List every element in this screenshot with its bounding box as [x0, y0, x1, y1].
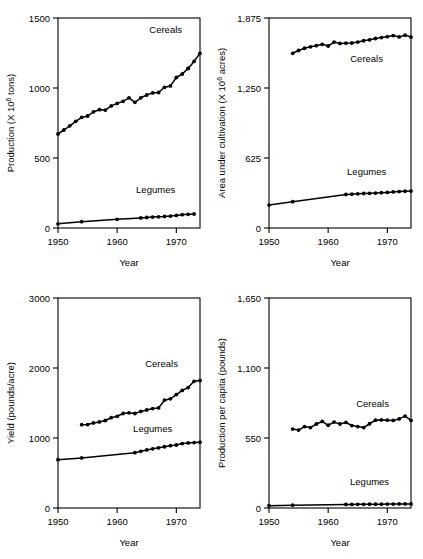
- data-point: [198, 51, 202, 55]
- data-point: [314, 422, 318, 426]
- data-point: [92, 110, 96, 114]
- data-point: [103, 108, 107, 112]
- chart-panel-area: 06251,2501,875195019601970YearArea under…: [211, 0, 422, 279]
- data-point: [391, 190, 395, 194]
- data-point: [169, 84, 173, 88]
- data-point: [385, 502, 389, 506]
- data-point: [380, 502, 384, 506]
- plot-frame: [58, 298, 200, 508]
- data-point: [267, 504, 271, 508]
- data-point: [332, 420, 336, 424]
- chart-svg-yield: 0100020003000195019601970YearYield (poun…: [0, 280, 211, 559]
- data-point: [180, 213, 184, 217]
- series-label-cereals: Cereals: [356, 398, 389, 409]
- series-label-legumes: Legumes: [136, 184, 175, 195]
- y-axis-title: Area under cultivation (X 106 acres): [216, 48, 227, 198]
- x-tick-label: 1960: [318, 516, 339, 527]
- chart-svg-per-capita: 05501,1001,650195019601970YearProduction…: [211, 280, 422, 559]
- data-point: [198, 440, 202, 444]
- data-point: [56, 458, 60, 462]
- data-point: [151, 215, 155, 219]
- x-tick-label: 1950: [258, 516, 279, 527]
- series-label-cereals: Cereals: [350, 53, 383, 64]
- series-label-legumes: Legumes: [133, 423, 172, 434]
- data-point: [391, 34, 395, 38]
- data-line-legumes: [58, 214, 194, 224]
- data-point: [133, 100, 137, 104]
- agriculture-figure: 050010001500195019601970YearProduction (…: [0, 0, 423, 559]
- x-tick-label: 1950: [47, 236, 68, 247]
- data-point: [115, 102, 119, 106]
- series-label-legumes: Legumes: [347, 166, 386, 177]
- data-point: [350, 503, 354, 507]
- data-point: [145, 448, 149, 452]
- data-point: [109, 416, 113, 420]
- data-point: [163, 215, 167, 219]
- data-point: [157, 446, 161, 450]
- data-point: [403, 189, 407, 193]
- y-tick-label: 1,100: [237, 363, 261, 374]
- data-point: [133, 412, 137, 416]
- data-point: [374, 502, 378, 506]
- data-point: [92, 421, 96, 425]
- data-line-cereals: [82, 381, 200, 425]
- data-point: [409, 35, 413, 39]
- data-point: [391, 502, 395, 506]
- y-tick-label: 1,650: [237, 293, 261, 304]
- data-point: [163, 85, 167, 89]
- y-tick-label: 1,875: [237, 13, 261, 24]
- data-point: [109, 104, 113, 108]
- series-label-cereals: Cereals: [145, 358, 178, 369]
- data-point: [174, 214, 178, 218]
- y-tick-label: 3000: [29, 293, 50, 304]
- data-point: [380, 418, 384, 422]
- data-point: [403, 33, 407, 37]
- y-tick-label: 1,250: [237, 83, 261, 94]
- data-point: [344, 421, 348, 425]
- data-point: [314, 44, 318, 48]
- data-point: [374, 37, 378, 41]
- data-point: [362, 426, 366, 430]
- data-point: [192, 441, 196, 445]
- data-point: [139, 449, 143, 453]
- data-point: [356, 40, 360, 44]
- data-point: [186, 386, 190, 390]
- data-point: [127, 411, 131, 415]
- data-point: [344, 503, 348, 507]
- data-point: [163, 398, 167, 402]
- data-point: [145, 408, 149, 412]
- y-tick-label: 550: [245, 433, 261, 444]
- series-label-legumes: Legumes: [350, 476, 389, 487]
- y-tick-label: 0: [45, 503, 50, 514]
- chart-panel-per-capita: 05501,1001,650195019601970YearProduction…: [211, 280, 422, 559]
- x-tick-label: 1970: [166, 236, 187, 247]
- data-point: [303, 425, 307, 429]
- data-point: [350, 424, 354, 428]
- data-point: [68, 124, 72, 128]
- data-point: [115, 217, 119, 221]
- data-point: [409, 419, 413, 423]
- data-point: [356, 502, 360, 506]
- data-point: [86, 423, 90, 427]
- data-point: [350, 41, 354, 45]
- data-point: [356, 425, 360, 429]
- data-point: [174, 76, 178, 80]
- data-point: [397, 502, 401, 506]
- data-point: [368, 38, 372, 42]
- data-point: [174, 443, 178, 447]
- data-point: [326, 423, 330, 427]
- data-point: [80, 456, 84, 460]
- data-point: [186, 67, 190, 71]
- data-point: [80, 116, 84, 120]
- data-point: [380, 36, 384, 40]
- data-point: [368, 502, 372, 506]
- chart-svg-area: 06251,2501,875195019601970YearArea under…: [211, 0, 422, 279]
- y-tick-label: 625: [245, 153, 261, 164]
- chart-panel-yield: 0100020003000195019601970YearYield (poun…: [0, 280, 211, 559]
- data-point: [368, 422, 372, 426]
- data-point: [297, 428, 301, 432]
- data-point: [192, 60, 196, 64]
- data-line-legumes: [269, 191, 411, 205]
- y-tick-label: 500: [34, 153, 50, 164]
- data-point: [180, 389, 184, 393]
